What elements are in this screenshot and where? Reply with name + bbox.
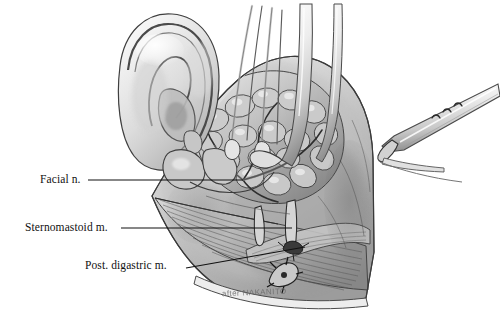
label-post-digastric-muscle: Post. digastric m.	[85, 259, 167, 271]
hemostat-clamp	[378, 84, 500, 182]
label-facial-nerve: Facial n.	[40, 173, 81, 185]
illustration-canvas: Facial n. Sternomastoid m. Post. digastr…	[0, 0, 500, 323]
label-sternomastoid-muscle: Sternomastoid m.	[25, 221, 108, 233]
surgical-anatomy-drawing	[0, 0, 500, 323]
